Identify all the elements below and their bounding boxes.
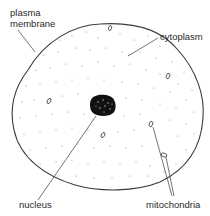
leader-plasma-membrane [18,30,35,52]
label-nucleus: nucleus [19,199,52,210]
label-cytoplasm: cytoplasm [160,31,203,42]
label-plasma-membrane-line1: plasma [10,7,41,18]
label-mitochondria: mitochondria [146,199,200,210]
label-plasma-membrane-line2: membrane [10,18,55,29]
nucleus-organelle [90,95,116,116]
